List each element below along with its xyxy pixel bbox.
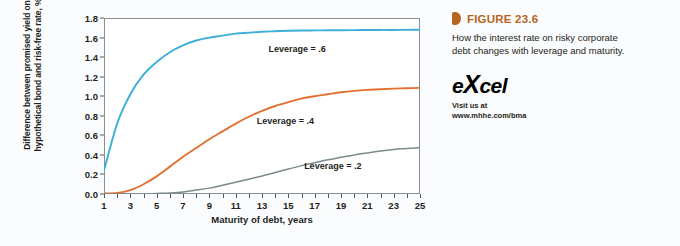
x-tick-mark: [407, 194, 408, 198]
x-tick-mark: [367, 194, 368, 198]
x-tick-label: 15: [283, 200, 294, 211]
plot-area: 0.00.20.40.60.81.01.21.41.61.8 135791113…: [104, 18, 420, 194]
figure-number: FIGURE 23.6: [467, 13, 538, 25]
y-tick-label: 1.4: [85, 52, 104, 63]
x-tick-label: 5: [154, 200, 159, 211]
x-tick-mark: [209, 194, 210, 198]
x-tick-mark: [275, 194, 276, 198]
x-tick-mark: [354, 194, 355, 198]
x-tick-label: 13: [257, 200, 268, 211]
x-tick-mark: [328, 194, 329, 198]
x-tick-label: 9: [207, 200, 212, 211]
x-tick-label: 25: [415, 200, 426, 211]
x-tick-mark: [420, 194, 421, 198]
line-series-leverage-06: [104, 30, 420, 171]
series-label: Leverage = .6: [269, 44, 326, 54]
x-tick-label: 21: [362, 200, 373, 211]
x-tick-mark: [394, 194, 395, 198]
x-axis-title: Maturity of debt, years: [104, 214, 420, 225]
y-tick-label: 0.0: [85, 189, 104, 200]
excel-logo: eXcel: [452, 74, 652, 96]
x-tick-mark: [249, 194, 250, 198]
excel-logo-x: X: [463, 70, 479, 98]
y-tick-label: 1.2: [85, 71, 104, 82]
visit-us-url[interactable]: www.mhhe.com/bma: [452, 111, 652, 121]
x-tick-mark: [288, 194, 289, 198]
x-tick-mark: [381, 194, 382, 198]
x-tick-label: 1: [101, 200, 106, 211]
x-tick-label: 17: [309, 200, 320, 211]
triangle-marker-icon: [452, 12, 461, 25]
visit-us-block: Visit us at www.mhhe.com/bma: [452, 101, 652, 120]
chart-curves: [104, 18, 420, 194]
x-tick-mark: [236, 194, 237, 198]
y-axis-title: Difference between promised yield on hyp…: [22, 0, 44, 168]
figure-heading: FIGURE 23.6: [452, 12, 652, 25]
figure-page: Difference between promised yield on hyp…: [0, 0, 680, 246]
y-tick-label: 1.6: [85, 32, 104, 43]
series-label: Leverage = .4: [257, 116, 314, 126]
line-series-leverage-02: [104, 148, 420, 194]
y-tick-label: 1.8: [85, 13, 104, 24]
x-tick-mark: [262, 194, 263, 198]
y-tick-label: 0.2: [85, 169, 104, 180]
caption-panel: FIGURE 23.6 How the interest rate on ris…: [452, 12, 652, 120]
x-tick-label: 19: [336, 200, 347, 211]
x-tick-mark: [302, 194, 303, 198]
chart-panel: Difference between promised yield on hyp…: [0, 0, 440, 246]
x-tick-label: 11: [231, 200, 241, 211]
y-tick-label: 1.0: [85, 91, 104, 102]
excel-logo-e: e: [452, 74, 463, 97]
excel-logo-cel: cel: [479, 74, 507, 97]
x-tick-mark: [183, 194, 184, 198]
y-tick-label: 0.8: [85, 110, 104, 121]
visit-us-line: Visit us at: [452, 101, 652, 111]
x-tick-mark: [144, 194, 145, 198]
y-tick-label: 0.4: [85, 149, 104, 160]
x-tick-mark: [130, 194, 131, 198]
x-tick-mark: [341, 194, 342, 198]
x-tick-mark: [170, 194, 171, 198]
x-tick-mark: [157, 194, 158, 198]
x-tick-mark: [117, 194, 118, 198]
x-tick-mark: [196, 194, 197, 198]
x-tick-label: 3: [128, 200, 133, 211]
x-tick-mark: [315, 194, 316, 198]
x-tick-mark: [223, 194, 224, 198]
x-tick-mark: [104, 194, 105, 198]
line-series-leverage-04: [104, 88, 420, 194]
y-tick-label: 0.6: [85, 130, 104, 141]
figure-description: How the interest rate on risky corporate…: [452, 32, 627, 57]
x-tick-label: 7: [180, 200, 185, 211]
x-tick-label: 23: [388, 200, 399, 211]
series-label: Leverage = .2: [304, 161, 361, 171]
